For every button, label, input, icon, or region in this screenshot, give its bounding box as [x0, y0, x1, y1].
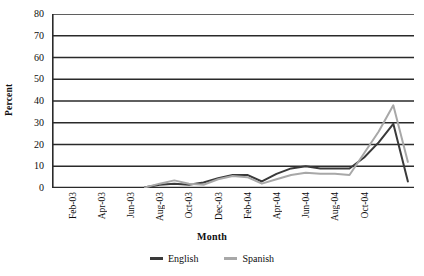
x-tick-label: Aug-03 — [153, 192, 167, 221]
data-series — [145, 105, 408, 187]
y-tick-label: 50 — [22, 74, 44, 84]
y-axis-title: Percent — [2, 62, 16, 138]
legend-label: Spanish — [242, 253, 274, 264]
x-tick-label: Aug-04 — [328, 192, 342, 221]
legend-label: English — [168, 253, 199, 264]
y-tick-label: 10 — [22, 161, 44, 171]
y-tick-label: 60 — [22, 53, 44, 63]
x-tick-label: Feb-03 — [66, 192, 80, 219]
plot-svg — [52, 14, 414, 188]
legend-item-spanish[interactable]: Spanish — [224, 253, 274, 264]
x-tick-label: Apr-03 — [95, 192, 109, 219]
y-tick-label: 30 — [22, 118, 44, 128]
plot-area — [52, 14, 414, 188]
legend-swatch-icon — [224, 257, 237, 260]
y-tick-label: 70 — [22, 31, 44, 41]
series-line-spanish — [145, 105, 408, 187]
y-tick-label: 20 — [22, 140, 44, 150]
chart-figure: Percent 80706050403020100 Feb-03Apr-03Ju… — [0, 0, 424, 276]
y-tick-label: 80 — [22, 9, 44, 19]
x-axis-title: Month — [0, 231, 424, 242]
x-tick-label: Feb-04 — [241, 192, 255, 219]
series-line-english — [145, 124, 408, 188]
chart-legend: EnglishSpanish — [0, 253, 424, 264]
legend-swatch-icon — [150, 257, 163, 260]
x-tick-label: Oct-03 — [182, 192, 196, 218]
x-tick-label: Dec-03 — [212, 192, 226, 220]
legend-item-english[interactable]: English — [150, 253, 199, 264]
y-tick-label: 40 — [22, 96, 44, 106]
x-tick-label: Oct-04 — [358, 192, 372, 218]
x-tick-label: Apr-04 — [270, 192, 284, 219]
x-tick-label: Jun-03 — [124, 192, 138, 218]
x-tick-label: Jun-04 — [299, 192, 313, 218]
